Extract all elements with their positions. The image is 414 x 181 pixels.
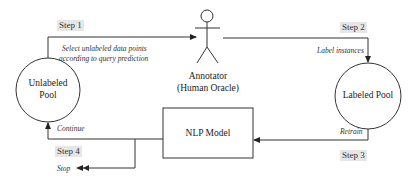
- label-instances-label: Label instances: [317, 47, 364, 55]
- unlabeled-pool-line2: Pool: [18, 91, 78, 101]
- labeled-pool-label: Labeled Pool: [335, 91, 401, 101]
- continue-label: Continue: [57, 125, 85, 133]
- step-2-label: Step 2: [340, 22, 367, 33]
- annotator-figure-icon: [195, 10, 220, 63]
- stop-label: Stop: [57, 165, 70, 173]
- select-points-label: Select unlabeled data points: [62, 45, 147, 53]
- step-4-label: Step 4: [55, 146, 82, 157]
- step-3-label: Step 3: [340, 150, 367, 161]
- step-1-label: Step 1: [57, 20, 84, 31]
- annotator-line1: Annotator: [172, 72, 244, 82]
- nlp-model-label: NLP Model: [163, 129, 253, 139]
- stop-arrow-icon: [76, 165, 89, 171]
- edge-stop-branch: [82, 139, 135, 168]
- annotator-label: Annotator (Human Oracle): [172, 72, 244, 93]
- unlabeled-pool-label: Unlabeled Pool: [18, 79, 78, 100]
- query-prediction-label: according to query prediction: [59, 55, 148, 63]
- annotator-line2: (Human Oracle): [172, 84, 244, 94]
- retrain-label: Retrain: [340, 128, 363, 136]
- unlabeled-pool-line1: Unlabeled: [18, 79, 78, 89]
